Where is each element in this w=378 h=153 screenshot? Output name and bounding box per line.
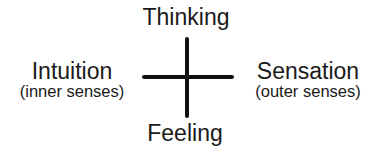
label-thinking: Thinking: [136, 6, 236, 29]
sublabel-inner-senses: (inner senses): [12, 83, 132, 100]
label-feeling: Feeling: [135, 122, 235, 145]
label-intuition: Intuition: [17, 60, 127, 83]
label-sensation: Sensation: [248, 60, 368, 83]
sublabel-outer-senses: (outer senses): [247, 83, 369, 100]
horizontal-axis-line: [142, 75, 234, 79]
